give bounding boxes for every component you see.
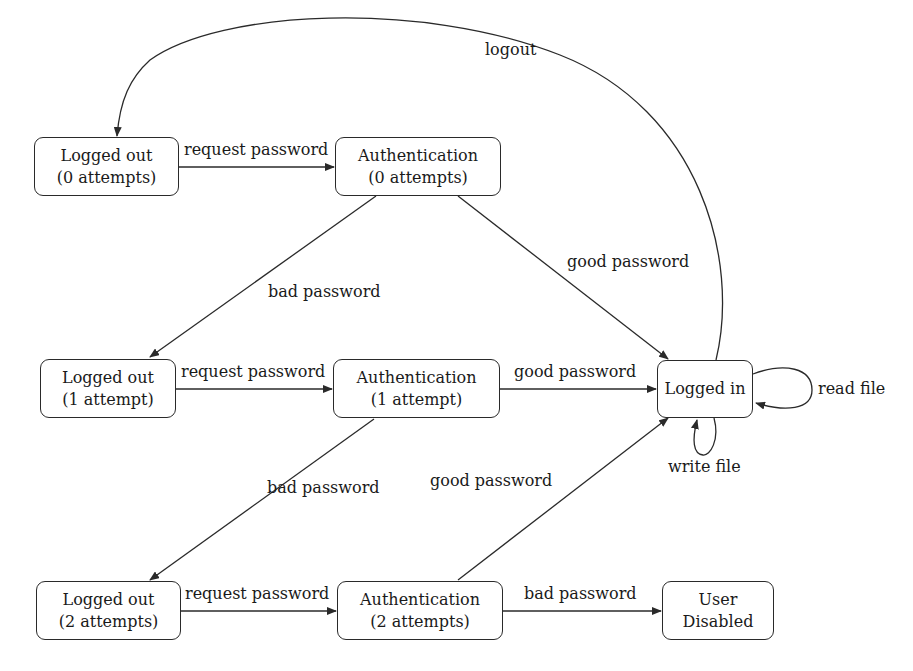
edge-a0-lo1 — [150, 196, 376, 357]
node-label: Logged out — [62, 367, 154, 389]
edge-li-read-loop — [753, 368, 812, 408]
node-sublabel: (2 attempts) — [370, 611, 470, 633]
edge-label-read-file: read file — [818, 379, 885, 399]
edge-a0-li — [458, 196, 668, 359]
state-logged-out-0[interactable]: Logged out (0 attempts) — [34, 137, 179, 196]
node-label: Authentication — [360, 589, 480, 611]
node-sublabel: (1 attempt) — [62, 389, 153, 411]
node-sublabel: (2 attempts) — [59, 611, 159, 633]
edge-a1-lo2 — [150, 419, 374, 580]
state-logged-out-2[interactable]: Logged out (2 attempts) — [36, 581, 181, 640]
edge-label-good-password-a1: good password — [514, 362, 636, 382]
node-sublabel: Disabled — [683, 611, 754, 633]
node-label: Logged out — [61, 145, 153, 167]
edge-label-request-password-2: request password — [185, 584, 329, 604]
state-logged-out-1[interactable]: Logged out (1 attempt) — [40, 359, 176, 418]
node-label: Logged in — [665, 378, 746, 400]
node-sublabel: (0 attempts) — [57, 167, 157, 189]
node-label: Logged out — [63, 589, 155, 611]
edge-label-good-password-a0: good password — [567, 252, 689, 272]
edge-a2-li — [458, 418, 668, 580]
edge-label-bad-password-a2: bad password — [524, 584, 637, 604]
node-sublabel: (0 attempts) — [368, 167, 468, 189]
state-authentication-1[interactable]: Authentication (1 attempt) — [333, 359, 500, 418]
edge-label-request-password-0: request password — [184, 140, 328, 160]
node-label: Authentication — [358, 145, 478, 167]
edge-label-good-password-a2: good password — [430, 471, 552, 491]
edge-label-bad-password-a0: bad password — [268, 282, 381, 302]
edge-li-write-loop — [694, 418, 716, 455]
edges-layer — [0, 0, 913, 671]
edge-label-logout: logout — [485, 40, 536, 60]
state-logged-in[interactable]: Logged in — [657, 360, 753, 418]
state-authentication-0[interactable]: Authentication (0 attempts) — [335, 137, 501, 196]
state-user-disabled[interactable]: User Disabled — [662, 581, 774, 640]
node-sublabel: (1 attempt) — [371, 389, 462, 411]
state-authentication-2[interactable]: Authentication (2 attempts) — [337, 581, 503, 640]
edge-label-request-password-1: request password — [181, 362, 325, 382]
edge-label-write-file: write file — [668, 457, 741, 477]
node-label: Authentication — [357, 367, 477, 389]
node-label: User — [699, 589, 738, 611]
edge-label-bad-password-a1: bad password — [267, 478, 380, 498]
